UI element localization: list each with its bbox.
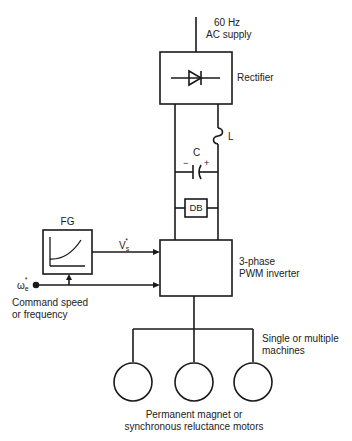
inverter-box bbox=[160, 240, 232, 296]
machines-label-line1: Single or multiple bbox=[262, 333, 339, 345]
db-label: DB bbox=[185, 202, 207, 214]
vs-subscript: s bbox=[126, 245, 130, 252]
inverter-label-line2: PWM inverter bbox=[239, 268, 300, 280]
command-label-line2: or frequency bbox=[12, 309, 68, 321]
v-f-curve-icon bbox=[50, 237, 85, 266]
fg-label: FG bbox=[43, 216, 92, 228]
rectifier-label: Rectifier bbox=[237, 72, 274, 84]
capacitor-minus: − bbox=[183, 157, 188, 169]
motor-1 bbox=[114, 363, 152, 401]
we-superscript: * bbox=[25, 276, 28, 283]
supply-label-line2: AC supply bbox=[206, 29, 252, 41]
inductor-label: L bbox=[228, 131, 234, 143]
vs-superscript: * bbox=[125, 237, 128, 244]
we-signal-label: ωe* bbox=[17, 277, 31, 295]
capacitor-label: C bbox=[193, 147, 200, 159]
machines-label-line2: machines bbox=[262, 345, 305, 357]
supply-label-line1: 60 Hz bbox=[214, 17, 240, 29]
capacitor-icon bbox=[175, 165, 218, 179]
motor-2 bbox=[175, 363, 213, 401]
diagram-canvas: 60 Hz AC supply Rectifier L C − + DB FG … bbox=[0, 0, 352, 441]
command-label-line1: Command speed bbox=[12, 297, 88, 309]
motors-label-line2: synchronous reluctance motors bbox=[94, 421, 294, 433]
we-subscript: e bbox=[25, 285, 29, 292]
inductor-icon bbox=[214, 128, 223, 144]
capacitor-plus: + bbox=[204, 157, 209, 169]
vs-signal-label: Vs* bbox=[119, 237, 132, 255]
diode-icon bbox=[171, 71, 220, 85]
motors-label-line1: Permanent magnet or bbox=[94, 409, 294, 421]
motor-3 bbox=[234, 363, 272, 401]
inverter-label-line1: 3-phase bbox=[239, 256, 275, 268]
we-symbol: ω bbox=[17, 280, 25, 291]
